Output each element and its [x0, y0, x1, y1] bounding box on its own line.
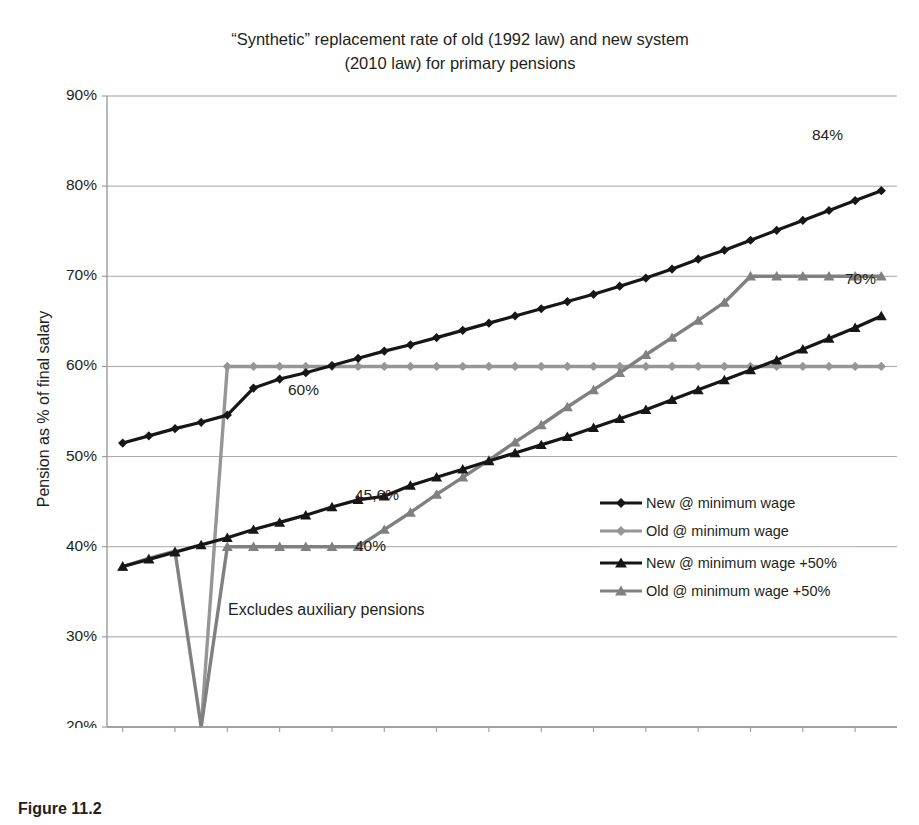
data-marker [143, 554, 154, 563]
data-marker [432, 333, 441, 342]
data-marker [798, 216, 807, 225]
data-marker [667, 332, 678, 341]
y-tick-label: 20% [37, 717, 97, 735]
legend-swatch [598, 581, 644, 601]
data-marker [510, 311, 519, 320]
data-marker [824, 271, 835, 280]
data-marker [562, 432, 573, 441]
data-marker [563, 297, 572, 306]
data-marker [406, 340, 415, 349]
data-marker [798, 362, 807, 371]
chart-figure: “Synthetic” replacement rate of old (199… [0, 0, 919, 825]
data-marker [275, 362, 284, 371]
data-marker [327, 361, 336, 370]
data-marker [797, 344, 808, 353]
value-annotation: 70% [845, 270, 876, 288]
data-marker [170, 546, 181, 555]
data-marker [354, 354, 363, 363]
legend-label: Old @ minimum wage +50% [646, 583, 830, 599]
legend-item[interactable]: New @ minimum wage +50% [598, 549, 898, 577]
data-marker [771, 355, 782, 364]
x-tick-label: 18 [260, 737, 300, 755]
x-tick-label: 26 [469, 737, 509, 755]
data-marker [720, 362, 729, 371]
legend-swatch [598, 521, 644, 541]
y-tick-label: 50% [37, 447, 97, 465]
data-marker [432, 362, 441, 371]
series-0 [118, 186, 886, 448]
data-marker [300, 542, 311, 551]
data-marker [771, 271, 782, 280]
y-tick-label: 70% [37, 266, 97, 284]
data-marker [850, 322, 861, 331]
x-tick-label: 24 [417, 737, 457, 755]
data-marker [536, 420, 547, 429]
legend-label: Old @ minimum wage [646, 523, 789, 539]
data-marker [144, 431, 153, 440]
legend-item[interactable]: Old @ minimum wage +50% [598, 577, 898, 605]
data-marker [118, 438, 127, 447]
data-marker [824, 362, 833, 371]
data-marker [641, 362, 650, 371]
data-marker [327, 502, 338, 511]
data-marker [143, 553, 154, 562]
data-marker [877, 186, 886, 195]
chart-note: Excludes auxiliary pensions [228, 601, 425, 619]
data-marker [745, 365, 756, 374]
data-marker [641, 273, 650, 282]
data-marker [746, 362, 755, 371]
value-annotation: 40% [355, 537, 386, 555]
data-marker [824, 333, 835, 342]
data-marker [588, 423, 599, 432]
data-marker [640, 350, 651, 359]
data-marker [223, 411, 232, 420]
data-marker [876, 271, 887, 280]
value-annotation: 60% [288, 381, 319, 399]
data-marker [510, 437, 521, 446]
data-marker [458, 362, 467, 371]
data-marker [275, 374, 284, 383]
data-marker [614, 368, 625, 377]
x-tick-label: 12 [103, 737, 143, 755]
data-marker [772, 226, 781, 235]
x-tick-label: 32 [626, 737, 666, 755]
x-tick-label: 30 [574, 737, 614, 755]
data-marker [431, 472, 442, 481]
legend-item[interactable]: Old @ minimum wage [598, 517, 898, 545]
series-line [123, 191, 882, 443]
data-marker [380, 347, 389, 356]
data-marker [851, 362, 860, 371]
data-marker [301, 362, 310, 371]
data-marker [249, 383, 258, 392]
x-tick-label: 28 [521, 737, 561, 755]
data-marker [274, 542, 285, 551]
data-marker [614, 414, 625, 423]
data-marker [457, 464, 468, 473]
data-marker [667, 362, 676, 371]
plot-area [0, 0, 919, 825]
x-axis-title: Years of contribution [107, 768, 897, 786]
data-marker [615, 362, 624, 371]
data-marker [483, 455, 494, 464]
legend-swatch [598, 553, 644, 573]
data-marker [772, 362, 781, 371]
data-marker [616, 498, 626, 508]
data-marker [876, 311, 887, 320]
value-annotation: 45,6% [355, 486, 399, 504]
data-marker [379, 524, 390, 533]
data-marker [405, 507, 416, 516]
data-marker [300, 510, 311, 519]
data-marker [170, 424, 179, 433]
data-marker [117, 561, 128, 570]
chart-legend: New @ minimum wageOld @ minimum wageNew … [598, 489, 898, 605]
data-marker [249, 362, 258, 371]
data-marker [588, 385, 599, 394]
data-marker [745, 271, 756, 280]
data-marker [405, 480, 416, 489]
data-marker [693, 315, 704, 324]
legend-item[interactable]: New @ minimum wage [598, 489, 898, 517]
data-marker [222, 542, 233, 551]
legend-label: New @ minimum wage [646, 495, 795, 511]
x-tick-label: 14 [155, 737, 195, 755]
chart-title-line2: (2010 law) for primary pensions [344, 54, 575, 72]
